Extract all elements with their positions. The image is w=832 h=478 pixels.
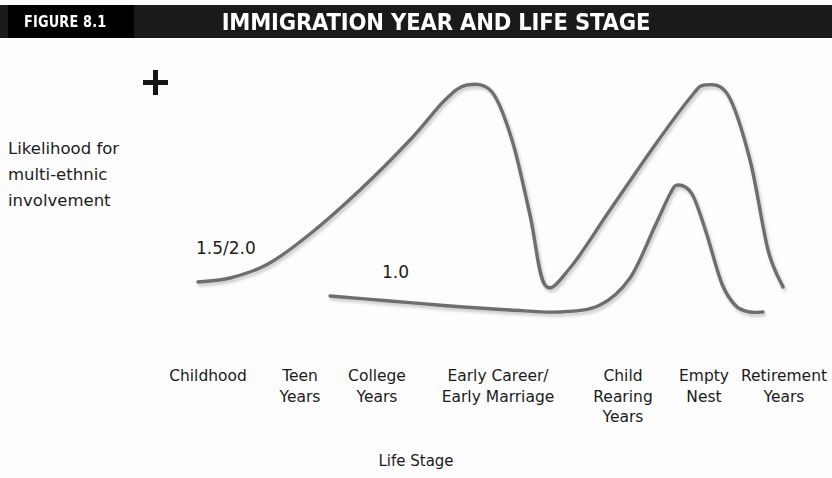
y-axis-plus-icon bbox=[143, 70, 168, 95]
x-tick-line-1: Childhood bbox=[150, 366, 266, 387]
x-tick-line-1: Early Career/ bbox=[418, 366, 578, 387]
x-tick-teen-years: Teen Years bbox=[264, 366, 336, 407]
x-tick-line-1: Retirement bbox=[736, 366, 832, 387]
x-tick-line-2: Early Marriage bbox=[418, 387, 578, 408]
x-tick-line-3: Years bbox=[576, 407, 670, 428]
x-tick-line-2: Years bbox=[334, 387, 420, 408]
x-tick-line-1: College bbox=[334, 366, 420, 387]
x-tick-line-1: Child bbox=[576, 366, 670, 387]
series-1-value-label: 1.5/2.0 bbox=[196, 238, 256, 258]
x-tick-early-career-early-marriage: Early Career/ Early Marriage bbox=[418, 366, 578, 407]
x-tick-college-years: College Years bbox=[334, 366, 420, 407]
series-line-2 bbox=[330, 185, 763, 312]
x-tick-child-rearing-years: Child Rearing Years bbox=[576, 366, 670, 428]
x-axis-title: Life Stage bbox=[0, 452, 832, 470]
series-line-1 bbox=[198, 84, 783, 288]
x-tick-retirement-years: Retirement Years bbox=[736, 366, 832, 407]
series-2-value-label: 1.0 bbox=[382, 262, 409, 282]
x-tick-line-2: Years bbox=[736, 387, 832, 408]
x-tick-line-2: Rearing bbox=[576, 387, 670, 408]
x-tick-empty-nest: Empty Nest bbox=[666, 366, 742, 407]
x-tick-line-1: Empty bbox=[666, 366, 742, 387]
x-tick-childhood: Childhood bbox=[150, 366, 266, 387]
x-tick-line-1: Teen bbox=[264, 366, 336, 387]
x-tick-line-2: Years bbox=[264, 387, 336, 408]
x-tick-line-2: Nest bbox=[666, 387, 742, 408]
